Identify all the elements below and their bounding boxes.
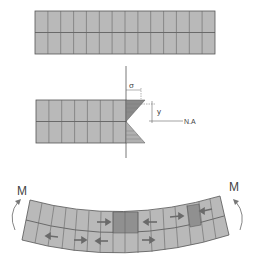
moment-right-label: M bbox=[229, 180, 239, 194]
moment-right: M bbox=[229, 180, 242, 230]
tension-stress-triangle bbox=[126, 122, 145, 144]
compression-stress-triangle bbox=[126, 100, 145, 122]
bent-beam bbox=[22, 196, 229, 253]
sigma-label: σ bbox=[129, 81, 134, 90]
neutral-axis-label: N.A bbox=[184, 118, 196, 125]
undeformed-beam bbox=[35, 11, 215, 54]
curved-arrow-icon bbox=[12, 202, 18, 230]
y-label: y bbox=[157, 107, 161, 116]
beam-bending-diagram: σ y N.A bbox=[0, 0, 253, 265]
stress-section: σ y N.A bbox=[36, 66, 196, 158]
moment-left: M bbox=[12, 184, 27, 230]
curved-arrow-icon bbox=[236, 202, 242, 230]
moment-left-label: M bbox=[17, 184, 27, 198]
